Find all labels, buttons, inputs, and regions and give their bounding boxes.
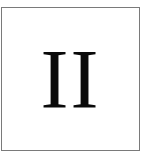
numeral-tile: II xyxy=(1,7,140,151)
roman-numeral-label: II xyxy=(2,8,139,150)
